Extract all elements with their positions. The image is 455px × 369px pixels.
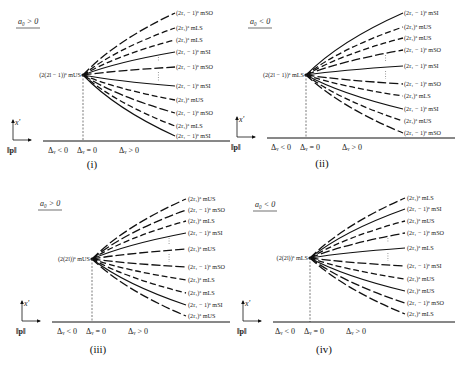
branch-curve bbox=[92, 259, 186, 293]
region-label: Δᵥ < 0 bbox=[57, 327, 77, 336]
arrowhead-right-icon bbox=[258, 319, 262, 323]
branch-label: (2r₁ − 1)ᵃ mSO bbox=[404, 46, 442, 54]
x-axis-label: ‖p‖ bbox=[231, 143, 241, 152]
branch-label: (2r₁)ᵃ mLS bbox=[404, 92, 431, 100]
branch-label: (2r₁)ᵃ mLS bbox=[407, 244, 434, 252]
branch-label: (2r₁)ᵃ mUS bbox=[188, 245, 216, 253]
branch-label: (2r₁)ᵃ mLS bbox=[188, 217, 215, 225]
branch-label: (2r₁)ᵃ mUS bbox=[188, 312, 216, 320]
branch-label: (2r₁)ᵃ mUS bbox=[176, 96, 204, 104]
sign-label: a₀ < 0 bbox=[255, 200, 275, 209]
region-label: Δᵥ > 0 bbox=[346, 327, 366, 336]
branch-label: (2r₁ − 1)ᵃ mSO bbox=[188, 206, 226, 214]
y-axis-label: x' bbox=[244, 299, 251, 308]
branch-label: (2r₁)ᵃ mLS bbox=[407, 194, 434, 202]
panel-iii: a₀ > 0(2r₁)ᵃ mUS(2r₁ − 1)ᵃ mSO(2r₁)ᵃ mLS… bbox=[16, 195, 230, 356]
branch-label: (2r₁ − 1)ᵃ mSO bbox=[176, 109, 214, 117]
branch-curve bbox=[83, 75, 175, 113]
branch-label: (2r₁)ᵃ mLS bbox=[188, 276, 215, 284]
center-label: (2(2l − 1))ᵃ mUS bbox=[39, 71, 81, 79]
branch-curve bbox=[83, 67, 175, 75]
branch-label: (2r₁ − 1)ᵃ mSO bbox=[176, 9, 214, 17]
branch-curve bbox=[92, 259, 186, 280]
center-label: (2(2l))ᵃ mLS bbox=[277, 254, 309, 262]
sign-label: a₀ > 0 bbox=[40, 199, 60, 208]
y-axis-label: x' bbox=[14, 118, 21, 127]
panel-caption: (ii) bbox=[315, 157, 329, 170]
panel-ii: a₀ < 0(2r₁ − 1)ᵃ mSI(2r₁)ᵃ mUS(2r₁)ᵃ mUS… bbox=[231, 9, 455, 170]
region-label: Δᵥ = 0 bbox=[86, 327, 106, 336]
branch-label: (2r₁)ᵃ mUS bbox=[404, 34, 432, 42]
branch-curve bbox=[310, 209, 405, 258]
branch-label: (2r₁ − 1)ᵃ mSI bbox=[176, 132, 211, 140]
branch-label: (2r₁)ᵃ mUS bbox=[404, 117, 432, 125]
center-label: (2(2l − 1))ᵃ mLS bbox=[263, 71, 305, 79]
branch-label: (2r₁)ᵃ mUS bbox=[407, 287, 435, 295]
branch-label: (2r₁ − 1)ᵃ mSI bbox=[404, 9, 439, 17]
branch-curve bbox=[83, 52, 175, 75]
panel-i: a₀ > 0(2r₁ − 1)ᵃ mSO(2r₁)ᵃ mLS(2r₁)ᵃ mLS… bbox=[7, 9, 230, 171]
branch-label: (2r₁ − 1)ᵃ mSI bbox=[176, 82, 211, 90]
branch-curve bbox=[310, 258, 405, 314]
y-axis-label: x' bbox=[23, 299, 30, 308]
center-label: (2(2l))ᵃ mUS bbox=[58, 255, 91, 263]
branch-label: (2r₁)ᵃ mLS bbox=[176, 24, 203, 32]
region-label: Δᵥ > 0 bbox=[342, 143, 362, 152]
region-label: Δᵥ < 0 bbox=[271, 143, 291, 152]
branch-label: (2r₁)ᵃ mLS bbox=[176, 36, 203, 44]
region-label: Δᵥ > 0 bbox=[119, 146, 139, 155]
arrowhead-right-icon bbox=[28, 138, 32, 142]
arrowhead-right-icon bbox=[37, 319, 41, 323]
region-label: Δᵥ = 0 bbox=[304, 327, 324, 336]
branch-label: (2r₁ − 1)ᵃ mSO bbox=[404, 129, 442, 137]
region-label: Δᵥ = 0 bbox=[77, 146, 97, 155]
panel-caption: (iv) bbox=[316, 343, 332, 356]
branch-curve bbox=[306, 66, 403, 75]
branch-curve bbox=[92, 259, 186, 316]
x-axis-label: ‖p‖ bbox=[237, 327, 247, 336]
x-axis-label: ‖p‖ bbox=[7, 146, 17, 155]
branch-label: (2r₁ − 1)ᵃ mSI bbox=[407, 262, 442, 270]
branch-curve bbox=[306, 50, 403, 75]
branch-label: (2r₁ − 1)ᵃ mSO bbox=[176, 63, 214, 71]
branch-curve bbox=[310, 258, 405, 279]
panel-iv: a₀ < 0(2r₁)ᵃ mLS(2r₁ − 1)ᵃ mSI(2r₁)ᵃ mUS… bbox=[237, 194, 455, 356]
branch-label: (2r₁)ᵃ mUS bbox=[407, 275, 435, 283]
branch-label: (2r₁ − 1)ᵃ mSO bbox=[188, 263, 226, 271]
branch-label: (2r₁ − 1)ᵃ mSI bbox=[404, 62, 439, 70]
region-label: Δᵥ = 0 bbox=[300, 143, 320, 152]
branch-label: (2r₁ − 1)ᵃ mSI bbox=[188, 229, 223, 237]
panel-caption: (i) bbox=[87, 158, 98, 171]
branch-label: (2r₁ − 1)ᵃ mSI bbox=[407, 205, 442, 213]
branch-label: (2r₁)ᵃ mLS bbox=[176, 122, 203, 130]
branch-label: (2r₁)ᵃ mLS bbox=[407, 310, 434, 318]
panel-caption: (iii) bbox=[90, 343, 107, 356]
branch-curve bbox=[306, 75, 403, 133]
branch-label: (2r₁)ᵃ mUS bbox=[188, 195, 216, 203]
branch-label: (2r₁)ᵃ mUS bbox=[407, 217, 435, 225]
region-label: Δᵥ > 0 bbox=[128, 327, 148, 336]
branch-curve bbox=[306, 13, 403, 75]
branch-curve bbox=[83, 75, 175, 86]
region-label: Δᵥ < 0 bbox=[275, 327, 295, 336]
arrowhead-right-icon bbox=[252, 135, 256, 139]
branch-label: (2r₁)ᵃ mUS bbox=[404, 23, 432, 31]
branch-label: (2r₁)ᵃ mLS bbox=[188, 289, 215, 297]
branch-label: (2r₁ − 1)ᵃ mSO bbox=[407, 229, 445, 237]
region-label: Δᵥ < 0 bbox=[48, 146, 68, 155]
branch-label: (2r₁ − 1)ᵃ mSI bbox=[176, 48, 211, 56]
branch-label: (2r₁ − 1)ᵃ mSI bbox=[188, 301, 223, 309]
bifurcation-diagram: a₀ > 0(2r₁ − 1)ᵃ mSO(2r₁)ᵃ mLS(2r₁)ᵃ mLS… bbox=[0, 0, 455, 369]
y-axis-label: x' bbox=[238, 115, 245, 124]
branch-curve bbox=[306, 27, 403, 75]
x-axis-label: ‖p‖ bbox=[16, 327, 26, 336]
branch-label: (2r₁ − 1)ᵃ mSO bbox=[407, 299, 445, 307]
sign-label: a₀ > 0 bbox=[18, 17, 38, 26]
branch-curve bbox=[92, 210, 186, 259]
branch-label: (2r₁ − 1)ᵃ mSO bbox=[404, 80, 442, 88]
sign-label: a₀ < 0 bbox=[250, 17, 270, 26]
branch-label: (2r₁ − 1)ᵃ mSI bbox=[404, 105, 439, 113]
